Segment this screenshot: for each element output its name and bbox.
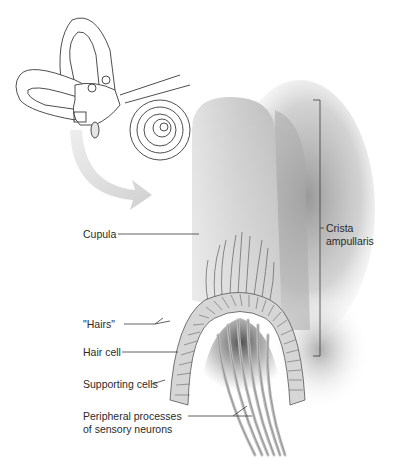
label-crista-line2: ampullaris — [326, 235, 374, 248]
label-hair-cell: Hair cell — [83, 346, 121, 359]
label-hairs: "Hairs" — [83, 318, 115, 331]
label-crista-line1: Crista — [326, 222, 353, 235]
label-peripheral-processes-line2: of sensory neurons — [83, 423, 172, 436]
figure-canvas: Cupula "Hairs" Hair cell Supporting cell… — [0, 0, 394, 458]
label-peripheral-processes-line1: Peripheral processes — [83, 410, 182, 423]
label-supporting-cells: Supporting cells — [83, 378, 158, 391]
inner-ear-inset — [16, 18, 190, 160]
label-cupula: Cupula — [83, 228, 116, 241]
